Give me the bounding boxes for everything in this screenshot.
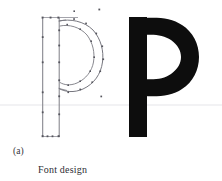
control-point [52,135,54,137]
figure-background [0,0,222,181]
solid-glyph-stem [129,17,147,137]
control-point [79,89,81,91]
control-point [58,135,60,137]
control-point-stray [98,9,100,11]
control-point [89,70,91,72]
control-point [99,70,101,72]
control-point [91,81,93,83]
control-point [58,61,60,63]
control-point [101,45,103,47]
control-point [67,84,69,86]
control-point [79,80,81,82]
font-design-illustration [0,0,222,181]
control-point [90,40,92,42]
control-point [102,58,104,60]
control-point [95,33,97,35]
control-point [42,17,44,19]
control-point [79,28,81,30]
control-point [73,18,75,20]
control-point-stray [73,10,75,12]
control-point [42,91,44,93]
control-point [47,135,49,137]
control-point [50,17,52,19]
control-point [93,56,95,58]
control-point [58,79,60,81]
control-point [42,36,44,38]
control-point [42,61,44,63]
control-point [57,17,59,19]
control-point [66,24,68,26]
control-point [42,111,44,113]
font-design-figure: (a) Font design [0,0,222,181]
control-point [42,135,44,137]
control-point [85,23,87,25]
control-point-stray [100,96,102,98]
control-point [58,45,60,47]
control-point [58,113,60,115]
control-point [58,95,60,97]
control-point [58,29,60,31]
control-point [67,91,69,93]
